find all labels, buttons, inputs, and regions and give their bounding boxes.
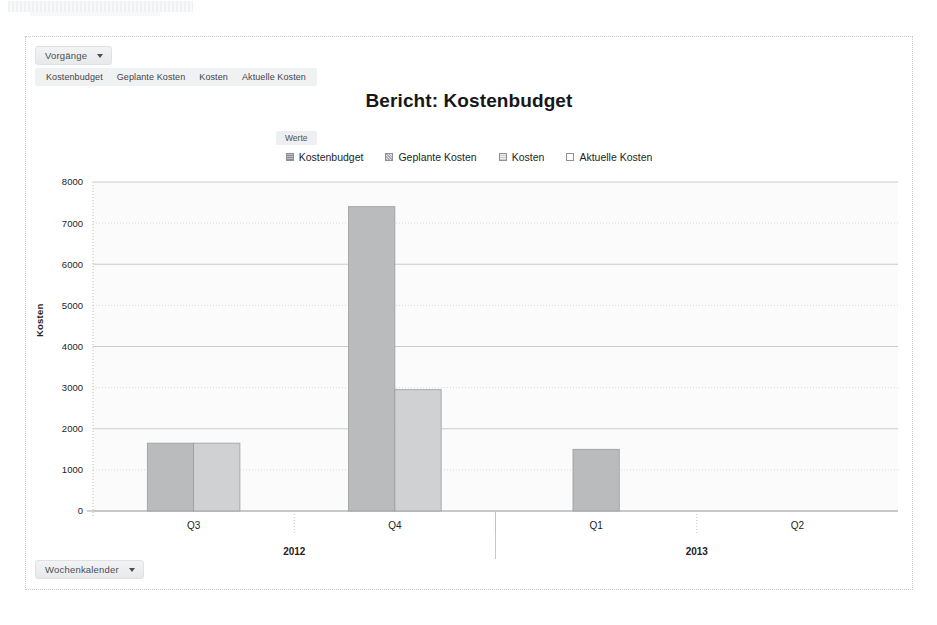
bar[interactable] [349, 207, 395, 511]
measure-tab-label: Geplante Kosten [117, 72, 186, 82]
bar[interactable] [395, 390, 441, 511]
chart-plot-area: 010002000300040005000600070008000Q3Q4Q1Q… [26, 37, 914, 591]
measure-tab[interactable]: Kosten [192, 70, 235, 84]
x-axis-category-label: Q2 [791, 520, 805, 531]
measure-tab-label: Aktuelle Kosten [242, 72, 306, 82]
y-axis-tick-label: 0 [78, 505, 83, 516]
calendar-dropdown-label: Wochenkalender [45, 564, 119, 575]
calendar-dropdown[interactable]: Wochenkalender [35, 559, 144, 579]
bar-rect[interactable] [147, 443, 193, 511]
legend-entry[interactable]: Kostenbudget [286, 151, 364, 163]
x-axis-group-label: 2012 [283, 546, 306, 557]
bar-rect[interactable] [349, 207, 395, 511]
legend-entry[interactable]: Geplante Kosten [385, 151, 476, 163]
y-axis-tick-label: 3000 [62, 382, 83, 393]
scan-artifact-strip [8, 1, 193, 12]
legend-label: Kosten [512, 151, 545, 163]
plot-background [93, 182, 898, 511]
bar-rect[interactable] [395, 390, 441, 511]
chart-svg: 010002000300040005000600070008000Q3Q4Q1Q… [26, 37, 914, 591]
legend-entry[interactable]: Aktuelle Kosten [566, 151, 652, 163]
scan-artifact-strip-secondary [30, 12, 160, 16]
y-axis-tick-label: 2000 [62, 423, 83, 434]
bar[interactable] [194, 443, 240, 511]
y-axis-tick-label: 8000 [62, 176, 83, 187]
x-axis-group-label: 2013 [686, 546, 709, 557]
x-axis-category-label: Q3 [187, 520, 201, 531]
legend-label: Kostenbudget [299, 151, 364, 163]
measure-tab[interactable]: Kostenbudget [39, 70, 110, 84]
legend-label: Aktuelle Kosten [579, 151, 652, 163]
chart-legend: KostenbudgetGeplante KostenKostenAktuell… [26, 151, 912, 163]
measure-tab-label: Kostenbudget [46, 72, 103, 82]
x-axis-category-label: Q4 [388, 520, 402, 531]
group-by-dropdown[interactable]: Vorgänge [35, 45, 112, 65]
bar[interactable] [573, 449, 619, 511]
legend-label: Geplante Kosten [398, 151, 476, 163]
measure-tab-strip[interactable]: KostenbudgetGeplante KostenKostenAktuell… [35, 68, 317, 86]
values-chip[interactable]: Werte [276, 131, 317, 145]
y-axis-tick-label: 4000 [62, 341, 83, 352]
legend-entry[interactable]: Kosten [499, 151, 545, 163]
y-axis-title: Kosten [34, 304, 45, 337]
values-chip-label: Werte [285, 133, 308, 143]
report-panel: Vorgänge KostenbudgetGeplante KostenKost… [25, 36, 913, 590]
legend-swatch-icon [499, 153, 507, 161]
legend-swatch-icon [385, 153, 393, 161]
y-axis-tick-label: 6000 [62, 259, 83, 270]
x-axis-category-label: Q1 [589, 520, 603, 531]
measure-tab[interactable]: Aktuelle Kosten [235, 70, 313, 84]
measure-tab-label: Kosten [199, 72, 228, 82]
measure-tab[interactable]: Geplante Kosten [110, 70, 193, 84]
page-title: Bericht: Kostenbudget [26, 90, 912, 112]
y-axis-tick-label: 7000 [62, 218, 83, 229]
bar-rect[interactable] [573, 449, 619, 511]
y-axis-tick-label: 1000 [62, 464, 83, 475]
group-by-dropdown-label: Vorgänge [45, 50, 87, 61]
chevron-down-icon [97, 54, 103, 58]
y-axis-tick-label: 5000 [62, 300, 83, 311]
legend-swatch-icon [566, 153, 574, 161]
legend-swatch-icon [286, 153, 294, 161]
bar[interactable] [147, 443, 193, 511]
bar-rect[interactable] [194, 443, 240, 511]
chevron-down-icon [129, 568, 135, 572]
